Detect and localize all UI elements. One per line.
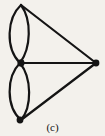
figure-caption: (c) (0, 120, 105, 134)
vertex-bottom (18, 60, 25, 67)
graph-diagram (0, 0, 105, 136)
vertex-right (93, 60, 100, 67)
figure-container: (c) (0, 0, 105, 136)
